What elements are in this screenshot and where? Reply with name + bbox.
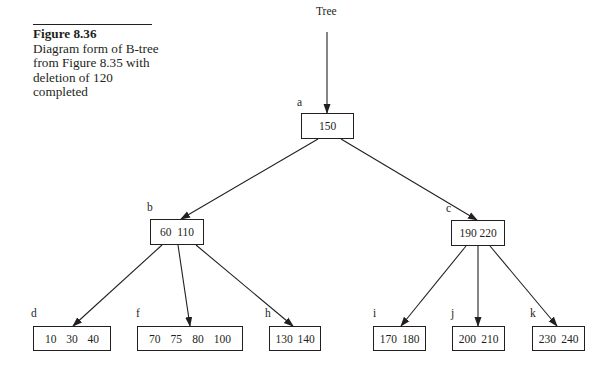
node-f-label: f	[136, 307, 140, 319]
edge-b-f	[178, 245, 190, 326]
key: 70	[149, 333, 161, 345]
key: 130	[275, 333, 292, 345]
node-a: 150	[301, 113, 354, 139]
key: 210	[481, 333, 498, 345]
node-i-label: i	[373, 307, 376, 319]
key: 75	[171, 333, 183, 345]
key: 140	[297, 333, 314, 345]
node-b: 60 110	[150, 219, 204, 245]
key: 240	[561, 333, 578, 345]
edge-b-h	[196, 245, 293, 326]
key: 110	[177, 226, 194, 238]
key: 220	[479, 227, 496, 239]
node-b-label: b	[147, 201, 153, 213]
key: 200	[459, 333, 476, 345]
node-c: 190 220	[451, 220, 505, 246]
key: 150	[319, 120, 336, 132]
key: 60	[160, 226, 172, 238]
node-i: 170 180	[373, 326, 426, 351]
node-d: 10 30 40	[33, 326, 111, 351]
edge-a-c	[341, 139, 477, 220]
node-a-label: a	[297, 96, 302, 108]
node-h-label: h	[265, 307, 271, 319]
node-f: 70 75 80 100	[137, 326, 243, 351]
node-k: 230 240	[532, 326, 585, 351]
key: 180	[402, 333, 419, 345]
key: 100	[214, 333, 231, 345]
tree-root-label: Tree	[316, 5, 337, 17]
key: 10	[45, 333, 57, 345]
edge-a-b	[181, 139, 318, 219]
key: 40	[88, 333, 100, 345]
key: 30	[66, 333, 78, 345]
node-j-label: j	[451, 307, 454, 319]
key: 80	[192, 333, 204, 345]
edge-b-d	[73, 245, 162, 326]
node-c-label: c	[446, 202, 451, 214]
key: 170	[380, 333, 397, 345]
node-k-label: k	[530, 307, 536, 319]
node-j: 200 210	[452, 326, 505, 351]
key: 230	[539, 333, 556, 345]
node-h: 130 140	[269, 326, 321, 351]
tree-edges	[0, 0, 614, 376]
edge-c-k	[490, 246, 557, 326]
edge-c-i	[401, 246, 466, 326]
key: 190	[459, 227, 476, 239]
node-d-label: d	[31, 307, 37, 319]
